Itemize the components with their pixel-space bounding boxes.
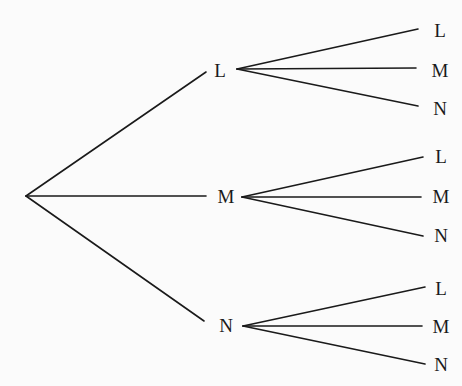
branch-L-L (237, 29, 418, 69)
branch-L-M (237, 68, 416, 69)
node-N-L: L (435, 279, 447, 298)
branch-N-N (243, 326, 425, 364)
node-L-L: L (434, 21, 446, 40)
node-level1-N: N (219, 316, 233, 335)
tree-diagram: L M N L M N L M N L M N (0, 0, 462, 386)
branch-root-N (26, 196, 204, 321)
branch-M-N (242, 197, 423, 236)
node-N-M: M (433, 317, 450, 336)
branch-root-L (26, 72, 206, 196)
node-level1-M: M (218, 187, 235, 206)
node-M-N: N (434, 226, 448, 245)
node-L-N: N (433, 99, 447, 118)
node-level1-L: L (214, 61, 226, 80)
node-M-L: L (435, 147, 447, 166)
branch-L-N (237, 69, 418, 106)
branch-N-L (243, 287, 425, 326)
node-L-M: M (432, 61, 449, 80)
node-M-M: M (433, 187, 450, 206)
branch-M-L (242, 157, 423, 197)
node-N-N: N (434, 355, 448, 374)
